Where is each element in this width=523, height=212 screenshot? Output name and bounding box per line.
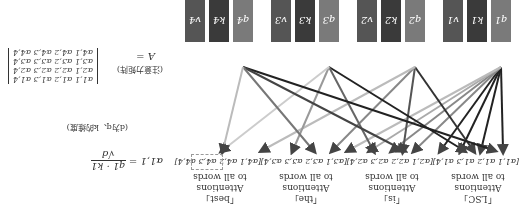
- matrix-note: (注意力矩阵): [117, 65, 163, 76]
- word: 「is」: [357, 193, 427, 204]
- line1: Attentions: [271, 182, 341, 193]
- line2: to all words: [185, 171, 255, 182]
- vector-lsc: [α1,1 α1,2 α1,3 α1,4]: [433, 157, 519, 166]
- label-is: 「is」Attentionsto all words: [357, 171, 427, 204]
- q-box: q4: [233, 0, 253, 42]
- line2: to all words: [443, 171, 513, 182]
- q-box: q2: [405, 0, 425, 42]
- matrix-row: α3,1 α3,2 α3,3 α3,4: [13, 57, 93, 66]
- line2: to all words: [357, 171, 427, 182]
- k-box: k2: [381, 0, 401, 42]
- q-box: q3: [319, 0, 339, 42]
- formula-numerator: q1 · k1: [91, 160, 126, 172]
- k-box: k3: [295, 0, 315, 42]
- attention-diagram: q1 k1 v1 q2 k2 v2 q3 k3 v3 q4 k4 v4 [α1,…: [0, 0, 523, 212]
- matrix-row: α2,1 α2,2 α2,3 α2,4: [13, 66, 93, 75]
- attention-matrix: α1,1 α1,2 α1,3 α1,4 α2,1 α2,2 α2,3 α2,4 …: [8, 48, 98, 84]
- formula-note: (d为q、k的维度): [67, 123, 128, 134]
- highlight-box: [191, 154, 223, 170]
- formula-lhs: α1,1 =: [129, 156, 163, 167]
- vector-the: [α3,1 α3,2 α3,3 α3,4]: [261, 157, 347, 166]
- matrix-label: A =: [136, 51, 155, 62]
- matrix-row: α4,1 α4,2 α4,3 α4,4: [13, 48, 93, 57]
- label-lsc: 「LSC」Attentionsto all words: [443, 171, 513, 204]
- word: 「the」: [271, 193, 341, 204]
- line1: Attentions: [185, 182, 255, 193]
- matrix-row: α1,1 α1,2 α1,3 α1,4: [13, 75, 93, 84]
- line1: Attentions: [443, 182, 513, 193]
- v-box: v1: [443, 0, 463, 42]
- k-box: k1: [467, 0, 487, 42]
- word: 「best」: [185, 193, 255, 204]
- label-the: 「the」Attentionsto all words: [271, 171, 341, 204]
- v-box: v3: [271, 0, 291, 42]
- line2: to all words: [271, 171, 341, 182]
- v-box: v4: [185, 0, 205, 42]
- q-box: q1: [491, 0, 511, 42]
- word: 「LSC」: [443, 193, 513, 204]
- line1: Attentions: [357, 182, 427, 193]
- label-best: 「best」Attentionsto all words: [185, 171, 255, 204]
- formula-denominator: √d: [91, 149, 126, 160]
- k-box: k4: [209, 0, 229, 42]
- v-box: v2: [357, 0, 377, 42]
- vector-is: [α2,1 α2,2 α2,3 α2,4]: [347, 157, 433, 166]
- formula: α1,1 = q1 · k1 √d: [91, 149, 163, 172]
